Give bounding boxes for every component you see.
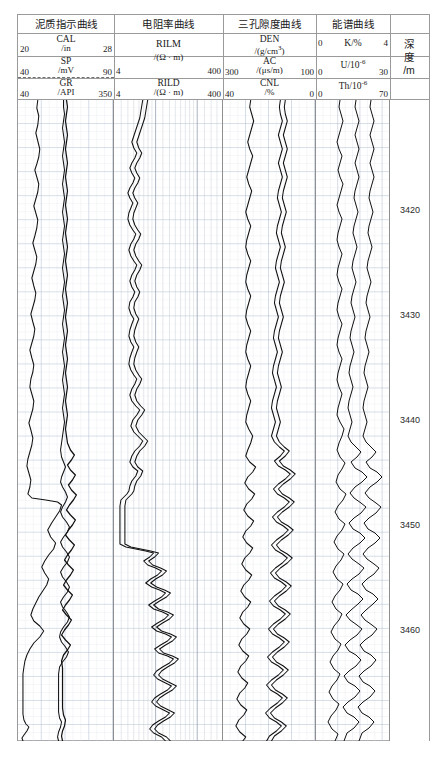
hdr-ac-min: 300 (225, 67, 239, 77)
hdr-sp-min: 40 (20, 67, 29, 77)
hdr-ac-max: 100 (301, 67, 315, 77)
hdr-rilm-max: 400 (208, 66, 222, 76)
track-resistivity (114, 100, 223, 741)
hdr-rilm: RILM /(Ω · m) 4 400 (114, 33, 223, 78)
hdr-sp-unit: /mV (18, 65, 114, 75)
hdr-rild-min: 4 (116, 89, 121, 99)
depth-label: 3460 (390, 625, 430, 635)
track-title-porosity: 三孔隙度曲线 (223, 15, 316, 33)
curve-k (328, 100, 346, 741)
hdr-rilm-min: 4 (116, 66, 121, 76)
hdr-den: DEN /(g/cm3) (223, 33, 316, 56)
hdr-cal-max: 28 (103, 44, 112, 54)
hdr-sp: SP /mV 40 90 (18, 56, 114, 78)
hdr-k-min: 0 (318, 38, 323, 48)
hdr-u-min: 0 (318, 67, 323, 77)
curves-spectral (316, 100, 390, 741)
depth-hdr-line1: 深 (404, 38, 414, 51)
hdr-k-max: 4 (384, 38, 389, 48)
depth-label: 3440 (390, 415, 430, 425)
log-header: 泥质指示曲线 电阻率曲线 三孔隙度曲线 能谱曲线 CAL /in 20 28 S… (18, 15, 429, 100)
hdr-rild: RILD /(Ω · m) 4 400 (114, 78, 223, 99)
hdr-cnl-min: 40 (225, 89, 234, 99)
curves-porosity (223, 100, 315, 741)
hdr-th-max: 70 (379, 89, 388, 99)
hdr-gr-min: 40 (20, 89, 29, 99)
hdr-gr: GR /API 40 350 (18, 78, 114, 99)
hdr-den-unit: /(g/cm3) (223, 43, 316, 56)
track-three-porosity (223, 100, 316, 741)
depth-column-header: 深 度 /m (389, 15, 429, 100)
track-title-resistivity: 电阻率曲线 (114, 15, 223, 33)
depth-label: 3420 (390, 205, 430, 215)
depth-hdr-line2: 度 (404, 51, 414, 64)
depth-label: 3450 (390, 520, 430, 530)
curves-resistivity (114, 100, 222, 741)
hdr-cnl: CNL /% 40 0 (223, 78, 316, 99)
log-plot-area: 3420 3430 3440 3450 3460 (18, 100, 429, 741)
hdr-gr-max: 350 (99, 89, 113, 99)
hdr-rilm-name: RILM (114, 39, 223, 49)
track-spectral-gamma (316, 100, 390, 741)
curve-th (358, 100, 382, 741)
hdr-rilm-unit: /(Ω · m) (114, 52, 223, 62)
hdr-k: K/% 0 4 (316, 33, 390, 56)
curve-cnl (270, 100, 295, 741)
curves-shale (18, 100, 113, 741)
curve-sp (58, 100, 70, 741)
hdr-u-max: 30 (379, 67, 388, 77)
hdr-ac: AC /(μs/m) 300 100 (223, 56, 316, 78)
depth-track: 3420 3430 3440 3450 3460 (389, 100, 429, 741)
hdr-cal: CAL /in 20 28 (18, 33, 114, 56)
depth-label: 3430 (390, 310, 430, 320)
track-shale-indicator (18, 100, 114, 741)
track-title-spectral: 能谱曲线 (316, 15, 390, 33)
curve-u (343, 100, 367, 741)
hdr-cal-min: 20 (20, 44, 29, 54)
hdr-sp-max: 90 (103, 67, 112, 77)
well-log-figure: 泥质指示曲线 电阻率曲线 三孔隙度曲线 能谱曲线 CAL /in 20 28 S… (0, 0, 447, 763)
track-title-shale: 泥质指示曲线 (18, 15, 114, 33)
hdr-rild-max: 400 (208, 89, 222, 99)
hdr-cal-unit: /in (18, 43, 114, 53)
curve-den (236, 100, 256, 741)
hdr-th: Th/10-6 0 70 (316, 78, 390, 99)
hdr-k-name: K/% (316, 38, 390, 48)
hdr-u: U/10-6 0 30 (316, 56, 390, 78)
hdr-cnl-unit: /% (223, 87, 316, 97)
log-frame: 泥质指示曲线 电阻率曲线 三孔隙度曲线 能谱曲线 CAL /in 20 28 S… (17, 14, 430, 741)
hdr-th-min: 0 (318, 89, 323, 99)
depth-hdr-line3: /m (403, 64, 415, 77)
hdr-cnl-max: 0 (310, 89, 315, 99)
curve-cal (22, 100, 62, 741)
